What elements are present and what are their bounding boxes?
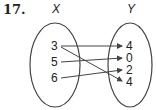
x-element-6: 6	[51, 71, 58, 85]
x-element-3: 3	[51, 39, 58, 53]
y-element-4b: 4	[126, 75, 133, 89]
arrow-3-to-4b	[61, 47, 122, 81]
arrow-6-to-2	[61, 70, 122, 78]
mapping-diagram: 3 5 6 4 0 2 4	[0, 0, 156, 110]
x-element-5: 5	[51, 55, 58, 69]
arrow-5-to-0	[61, 58, 122, 62]
